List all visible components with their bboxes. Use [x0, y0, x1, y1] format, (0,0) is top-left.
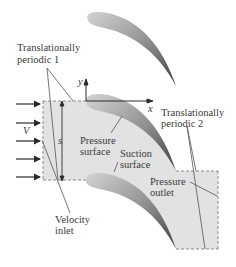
label-periodic-2-line1: Translationally [161, 107, 225, 118]
label-suction-surface-line2: surface [120, 159, 151, 170]
label-pressure-outlet-line1: Pressure [150, 176, 186, 187]
label-y-axis: y [77, 76, 83, 87]
label-pressure-surface-line1: Pressure [80, 135, 116, 146]
label-pressure-outlet-line2: outlet [150, 187, 174, 198]
label-periodic-1-line1: Translationally [17, 42, 81, 53]
leader-periodic1-top [47, 68, 73, 101]
diagram-canvas: Translationally periodic 1 Translational… [0, 0, 236, 267]
label-pressure-surface-line2: surface [80, 146, 111, 157]
label-suction-surface-line1: Suction [120, 148, 153, 159]
turbine-blade-top [87, 12, 176, 86]
label-periodic-2-line2: periodic 2 [161, 118, 203, 129]
label-x-axis: x [147, 103, 153, 114]
label-periodic-1-line2: periodic 1 [17, 54, 59, 65]
y-axis-arrow-icon [84, 79, 88, 85]
label-velocity-inlet-line1: Velocity [55, 214, 91, 225]
label-spacing-symbol: s [58, 135, 62, 146]
label-velocity-symbol: V [23, 125, 31, 136]
inlet-velocity-arrows [16, 104, 40, 177]
label-velocity-inlet-line2: inlet [55, 225, 74, 236]
turbine-cascade-diagram: Translationally periodic 1 Translational… [0, 0, 236, 267]
